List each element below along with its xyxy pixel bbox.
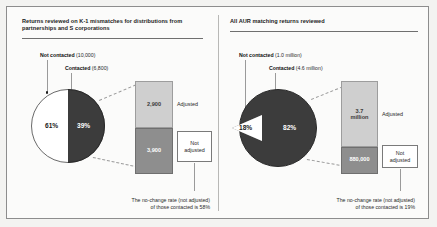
left-contacted-callout: Contacted (6,800) — [65, 65, 108, 71]
left-title-rule — [22, 38, 203, 39]
right-not-adjusted-box: Not adjusted — [382, 145, 418, 168]
right-bar-adjusted-value-line2: million — [350, 114, 368, 120]
right-contacted-label: Contacted — [269, 65, 296, 71]
right-pct-not-contacted: 18% — [239, 124, 252, 131]
right-footnote-stem — [400, 169, 401, 191]
right-panel-title: All AUR matching returns reviewed — [230, 18, 415, 25]
right-bar-adjusted-value-line1: 3.7 — [356, 108, 364, 114]
right-footnote-line1: The no-change rate (not adjusted) — [337, 197, 415, 203]
right-pct-contacted: 82% — [283, 124, 296, 131]
left-contacted-count: (6,800) — [92, 65, 108, 71]
right-bar-adjusted-label: Adjusted — [382, 111, 403, 117]
left-bar-not-adjusted-value: 3,900 — [135, 147, 173, 153]
left-not-adjusted-line1: Not — [190, 140, 198, 146]
left-not-contacted-count: (10,000) — [76, 52, 95, 58]
left-not-adjusted-line2: adjusted — [184, 147, 204, 153]
right-not-contacted-count: (1.0 million) — [275, 52, 302, 58]
page-background: Returns reviewed on K-1 mismatches for d… — [0, 0, 437, 227]
left-footnote: The no-change rate (not adjusted) of tho… — [85, 197, 210, 211]
left-not-adjusted-box: Not adjusted — [177, 131, 212, 162]
left-not-contacted-marker — [46, 91, 49, 94]
right-title-rule — [230, 31, 418, 32]
right-contacted-count: (4.6 million) — [296, 65, 323, 71]
left-panel: Returns reviewed on K-1 mismatches for d… — [7, 7, 218, 220]
left-footnote-line2: of those contacted is 58% — [151, 204, 210, 210]
left-not-contacted-label: Not contacted — [40, 52, 76, 58]
left-not-contacted-callout: Not contacted (10,000) — [40, 52, 95, 58]
left-pct-contacted: 39% — [77, 122, 90, 129]
left-connector-bottom — [93, 157, 138, 168]
left-panel-title: Returns reviewed on K-1 mismatches for d… — [22, 18, 197, 33]
right-not-contacted-callout: Not contacted (1.0 million) — [239, 52, 302, 58]
left-contacted-label: Contacted — [65, 65, 92, 71]
left-footnote-line1: The no-change rate (not adjusted) — [132, 197, 210, 203]
left-not-contacted-leader — [47, 60, 48, 92]
left-footnote-stem — [194, 163, 195, 191]
right-footnote-line2: of those contacted is 19% — [356, 204, 415, 210]
right-footnote: The no-change rate (not adjusted) of tho… — [293, 197, 415, 211]
right-bar-not-adjusted-value: 880,000 — [341, 156, 378, 162]
right-not-adjusted-line1: Not — [396, 150, 404, 156]
right-not-contacted-label: Not contacted — [239, 52, 275, 58]
left-pct-not-contacted: 61% — [45, 122, 58, 129]
figure-frame: Returns reviewed on K-1 mismatches for d… — [6, 6, 429, 219]
right-contacted-callout: Contacted (4.6 million) — [269, 65, 323, 71]
left-bar-adjusted-label: Adjusted — [177, 101, 198, 107]
right-bar-adjusted-value: 3.7 million — [341, 108, 378, 120]
left-bar-adjusted-value: 2,900 — [135, 101, 173, 107]
right-not-adjusted-line2: adjusted — [390, 157, 410, 163]
left-connector-top — [99, 84, 136, 101]
